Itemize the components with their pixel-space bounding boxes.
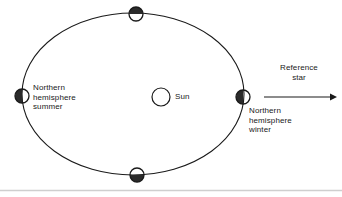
diagram-canvas: Northern hemisphere summer Sun Northern … [0,0,342,197]
reference-star-arrow [264,93,337,100]
label-northern-hemisphere-winter: Northern hemisphere winter [249,106,292,135]
reference-star-arrow-head [330,93,337,100]
earth-bottom [130,168,144,182]
label-reference-star: Reference star [264,63,334,82]
earth-left [15,89,29,103]
earth-top [129,7,143,21]
earth-right [236,90,250,104]
earth-top-shaded-half [129,7,143,14]
label-sun: Sun [175,92,190,102]
earth-right-shaded-half [236,90,243,104]
label-northern-hemisphere-summer: Northern hemisphere summer [33,83,76,112]
earth-left-shaded-half [15,89,22,103]
earth-bottom-shaded-half [130,175,144,182]
sun-circle [152,88,170,106]
